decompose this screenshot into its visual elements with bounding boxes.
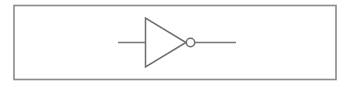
inverter-diagram-figure <box>0 0 352 87</box>
inversion-bubble <box>186 38 194 46</box>
inverter-diagram-canvas <box>0 0 352 87</box>
